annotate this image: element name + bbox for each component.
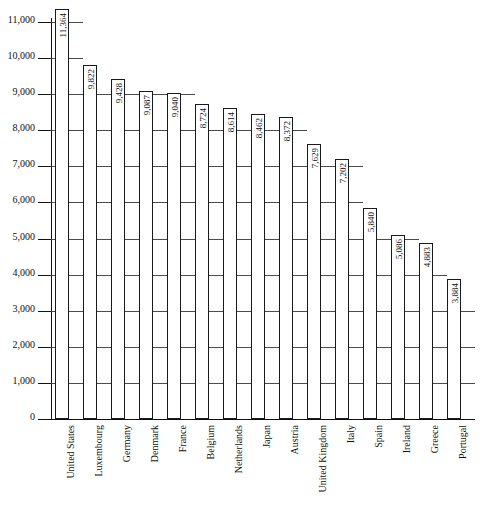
bar-value-label: 8,372 [283,121,292,141]
gridline [461,311,475,312]
gridline [321,202,335,203]
gridline [69,347,83,348]
bar-value-label: 9,040 [171,97,180,117]
gridline [97,383,111,384]
gridline [153,311,167,312]
y-axis-tick-mark [38,311,51,312]
y-axis-tick-mark [38,166,51,167]
gridline [349,202,363,203]
gridline [181,239,195,240]
y-axis-tick-label: 8,000 [13,123,36,133]
category-label: Belgium [206,425,216,459]
bar-value-label: 9,428 [115,83,124,103]
gridline [69,239,83,240]
gridline [293,202,307,203]
bar-value-label: 5,086 [395,239,404,259]
gridline [321,275,335,276]
bar: 8,724 [195,104,209,419]
gridline [209,383,223,384]
gridline [265,383,279,384]
gridline [153,275,167,276]
bar: 8,462 [251,114,265,419]
gridline [293,383,307,384]
gridline [433,311,447,312]
gridline [433,347,447,348]
bar-chart: 01,0002,0003,0004,0005,0006,0007,0008,00… [0,0,487,513]
gridline [153,166,167,167]
bar: 5,840 [363,208,377,419]
gridline [237,239,251,240]
gridline [209,166,223,167]
gridline [97,239,111,240]
gridline [405,239,419,240]
gridline [293,275,307,276]
gridline [153,202,167,203]
bar-value-label: 8,462 [255,118,264,138]
gridline [349,347,363,348]
gridline [321,166,335,167]
bar-value-label: 7,629 [311,148,320,168]
gridline [181,166,195,167]
bar: 8,372 [279,117,293,419]
gridline [237,383,251,384]
gridline [209,202,223,203]
gridline [153,130,167,131]
bar: 9,087 [139,91,153,419]
gridline [69,94,83,95]
category-label: Italy [346,425,356,443]
gridline [69,202,83,203]
gridline [265,202,279,203]
category-label: Greece [430,425,440,453]
y-axis-tick-mark [38,383,51,384]
y-axis-tick-mark [38,94,51,95]
gridline [405,311,419,312]
gridline [405,383,419,384]
gridline [321,311,335,312]
y-axis-tick-label: 5,000 [13,232,36,242]
gridline [321,347,335,348]
gridline [209,311,223,312]
bar: 9,822 [83,65,97,419]
y-axis-tick-mark [38,22,51,23]
bar: 11,364 [55,9,69,419]
bar-value-label: 8,614 [227,112,236,132]
gridline [97,275,111,276]
bar: 5,086 [391,235,405,419]
gridline [97,311,111,312]
gridline [153,94,167,95]
gridline [125,202,139,203]
category-label: Japan [262,425,272,448]
gridline [181,202,195,203]
y-axis-tick-label: 6,000 [13,195,36,205]
category-label: Portugal [458,425,468,459]
y-axis-tick-mark [38,275,51,276]
y-axis-tick-label: 1,000 [13,376,36,386]
gridline [265,166,279,167]
gridline [153,239,167,240]
gridline [125,94,139,95]
y-axis-tick-label: 4,000 [13,268,36,278]
gridline [69,311,83,312]
category-label: Denmark [150,425,160,462]
gridline [349,311,363,312]
gridline [125,166,139,167]
category-label: United States [66,425,76,479]
gridline [209,275,223,276]
gridline [125,239,139,240]
gridline [349,166,363,167]
y-axis-tick-mark [38,130,51,131]
gridline [321,383,335,384]
gridline [97,166,111,167]
y-axis-tick-mark [38,419,51,420]
gridline [69,130,83,131]
y-axis-tick-label: 10,000 [8,51,36,61]
bar-value-label: 5,840 [367,212,376,232]
gridline [237,347,251,348]
gridline [293,130,307,131]
category-label: Luxembourg [94,425,104,476]
gridline [349,239,363,240]
category-label: United Kingdom [318,425,328,493]
gridline [377,311,391,312]
y-axis-line [51,18,52,420]
bar: 7,629 [307,144,321,419]
